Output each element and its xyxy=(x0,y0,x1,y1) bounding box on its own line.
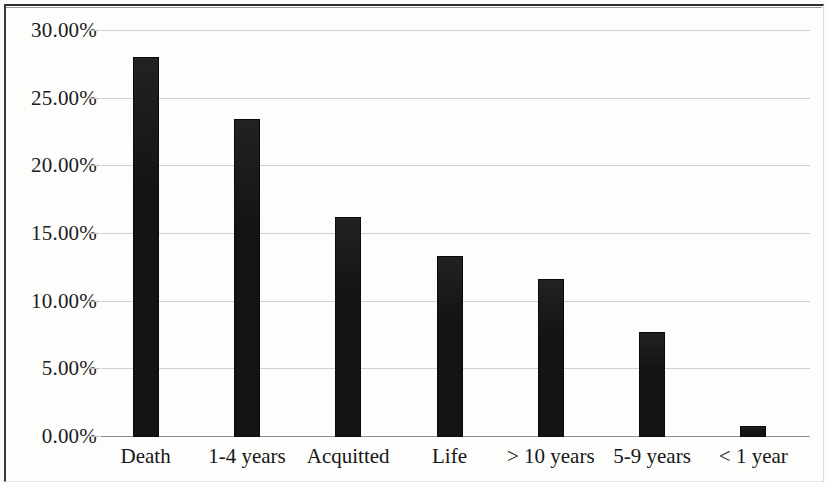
x-axis-category-label: Life xyxy=(432,444,467,469)
plot-area xyxy=(101,30,810,436)
bar xyxy=(134,58,158,436)
y-axis-tick-label: 10.00% xyxy=(5,290,97,311)
bar xyxy=(640,333,664,436)
y-axis-tick-label: 25.00% xyxy=(5,87,97,108)
gridline xyxy=(101,98,810,99)
bar xyxy=(438,257,462,436)
bar xyxy=(235,120,259,436)
y-axis-tick-mark xyxy=(88,233,100,234)
x-axis: Death1-4 yearsAcquittedLife> 10 years5-9… xyxy=(101,444,810,478)
y-axis-tick-mark xyxy=(88,98,100,99)
y-axis-tick-label: 30.00% xyxy=(5,20,97,41)
y-axis-tick-mark xyxy=(88,30,100,31)
x-axis-category-label: Death xyxy=(121,444,171,469)
y-axis-tick-label: 0.00% xyxy=(5,426,97,447)
y-axis-tick-mark xyxy=(88,368,100,369)
x-axis-category-label: 5-9 years xyxy=(613,444,691,469)
gridline xyxy=(101,165,810,166)
x-axis-category-label: > 10 years xyxy=(507,444,595,469)
bar xyxy=(336,218,360,436)
y-axis-tick-mark xyxy=(88,301,100,302)
bar xyxy=(741,427,765,436)
gridline xyxy=(101,233,810,234)
x-axis-category-label: < 1 year xyxy=(719,444,788,469)
y-axis-tick-mark xyxy=(88,436,100,437)
axis-baseline xyxy=(101,436,810,437)
x-axis-category-label: Acquitted xyxy=(307,444,390,469)
bar xyxy=(539,280,563,436)
y-axis-tick-label: 15.00% xyxy=(5,223,97,244)
x-axis-category-label: 1-4 years xyxy=(208,444,286,469)
y-axis-tick-label: 20.00% xyxy=(5,155,97,176)
bar-chart: 30.00%25.00%20.00%15.00%10.00%5.00%0.00%… xyxy=(0,0,827,486)
y-axis: 30.00%25.00%20.00%15.00%10.00%5.00%0.00% xyxy=(0,30,97,436)
gridline xyxy=(101,30,810,31)
y-axis-tick-mark xyxy=(88,165,100,166)
y-axis-tick-label: 5.00% xyxy=(5,358,97,379)
chart-frame-top-rule xyxy=(6,7,822,8)
